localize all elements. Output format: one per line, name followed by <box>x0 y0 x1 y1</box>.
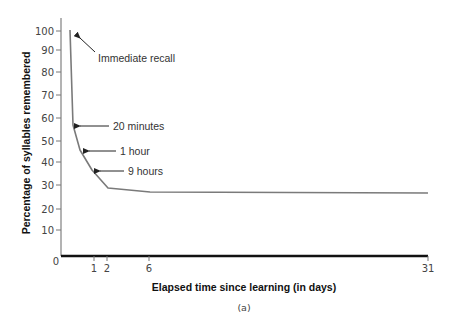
x-axis-title: Elapsed time since learning (in days) <box>152 281 336 293</box>
x-tick-label: 31 <box>422 263 435 274</box>
arrow-icon <box>80 38 95 52</box>
y-axis-title: Percentage of syllables remembered <box>20 52 32 235</box>
y-tick-label: 80 <box>41 67 54 78</box>
annotation-immediate-recall: Immediate recall <box>80 38 175 64</box>
annotation-20-minutes: 20 minutes <box>80 120 164 132</box>
annotation-label: 1 hour <box>120 145 150 157</box>
figure-caption: (a) <box>237 302 250 313</box>
y-tick-label: 20 <box>41 204 54 215</box>
y-tick-label: 100 <box>35 26 54 37</box>
y-tick-label: 40 <box>41 157 54 168</box>
x-tick-labels: 0 1 2 6 31 <box>53 256 435 274</box>
x-tick-label-origin: 0 <box>53 256 59 267</box>
annotation-label: 9 hours <box>128 165 163 177</box>
annotation-1-hour: 1 hour <box>89 145 150 157</box>
y-tick-label: 10 <box>41 225 54 236</box>
y-tick-label: 30 <box>41 180 54 191</box>
annotation-9-hours: 9 hours <box>100 165 163 177</box>
y-tick-label: 90 <box>41 45 54 56</box>
y-tick-label: 50 <box>41 136 54 147</box>
x-tick-label: 2 <box>104 263 110 274</box>
x-tick-label: 1 <box>91 263 97 274</box>
forgetting-curve-chart: 100 90 80 70 60 50 40 30 20 10 0 1 2 6 3… <box>0 0 454 324</box>
annotation-label: 20 minutes <box>113 120 164 132</box>
x-tick-label: 6 <box>146 263 152 274</box>
annotation-label: Immediate recall <box>98 52 175 64</box>
y-tick-label: 60 <box>41 113 54 124</box>
y-tick-labels: 100 90 80 70 60 50 40 30 20 10 <box>35 26 54 236</box>
y-tick-label: 70 <box>41 90 54 101</box>
